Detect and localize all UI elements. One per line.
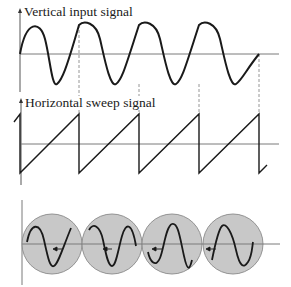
- diagram-canvas: [0, 0, 291, 287]
- horizontal-signal-panel: [14, 98, 279, 185]
- vertical-signal-label: Vertical input signal: [22, 5, 135, 19]
- horizontal-signal-label: Horizontal sweep signal: [23, 96, 157, 110]
- vertical-signal-panel: [18, 8, 279, 92]
- sine-wave: [20, 23, 259, 85]
- screen-display-panel: [22, 200, 280, 285]
